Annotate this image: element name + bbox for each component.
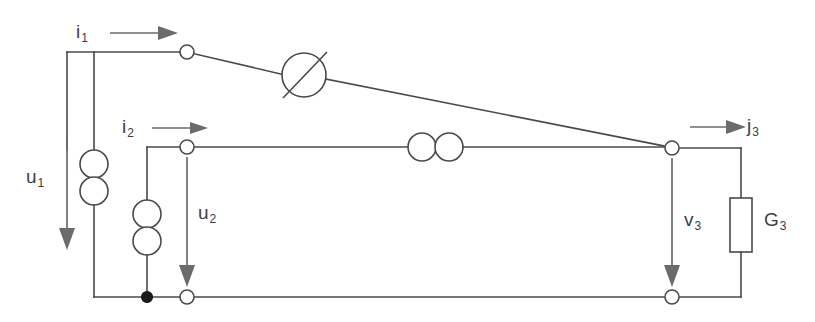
label-i2: i2 [122,117,133,136]
source-2-circle-top [133,200,161,228]
node-top-left [180,45,194,59]
label-u1: u1 [26,167,43,186]
label-i1: i1 [76,22,87,41]
schematic-svg [0,0,815,322]
source-2-circle-bottom [133,227,161,255]
label-v3: v3 [684,210,700,229]
coupler-circle-right [435,133,463,161]
junction-dot-bottom [142,292,153,303]
arrow-j3-head [726,120,746,134]
source-1-circle-top [80,150,108,178]
coupler-circle-left [408,133,436,161]
arrow-i1-head [158,26,178,40]
node-right-top [665,141,679,155]
source-1-circle-bottom [80,177,108,205]
arrow-v3-head [664,265,680,287]
wire-top-diag-left [195,54,281,74]
wire-top-diag-right [326,79,664,146]
arrow-u2-head [179,265,195,287]
node-middle-left [180,140,194,154]
label-j3: j3 [747,116,758,135]
node-bottom-right [665,290,679,304]
arrow-i2-head [190,122,208,134]
label-u2: u2 [198,203,215,222]
node-bottom-middle [180,290,194,304]
label-g3: G3 [764,210,785,229]
circuit-diagram-canvas: i1 i2 j3 u1 u2 v3 G3 [0,0,815,322]
conductance-g3-body [730,198,752,252]
arrow-u1-head [59,228,75,250]
